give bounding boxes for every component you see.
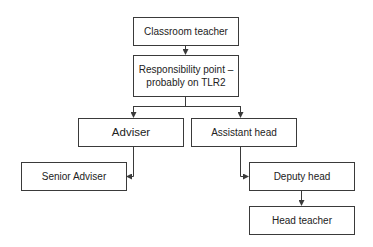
- node-label: Classroom teacher: [144, 25, 228, 38]
- node-head-teacher: Head teacher: [249, 206, 355, 235]
- edge-adviser-to-senior-adviser: [127, 146, 134, 177]
- node-label: Responsibility point – probably on TLR2: [139, 63, 234, 89]
- node-label: Assistant head: [211, 126, 277, 139]
- node-label: Adviser: [112, 126, 150, 139]
- node-adviser: Adviser: [78, 118, 184, 147]
- node-assistant-head: Assistant head: [191, 118, 297, 147]
- node-label: Deputy head: [274, 170, 331, 183]
- node-label: Senior Adviser: [42, 170, 106, 183]
- node-deputy-head: Deputy head: [249, 162, 355, 191]
- node-senior-adviser: Senior Adviser: [21, 162, 127, 191]
- node-classroom-teacher: Classroom teacher: [133, 17, 239, 46]
- node-responsibility-point: Responsibility point – probably on TLR2: [133, 55, 239, 97]
- node-label: Head teacher: [272, 214, 332, 227]
- edge-assistant-to-deputy: [241, 146, 249, 177]
